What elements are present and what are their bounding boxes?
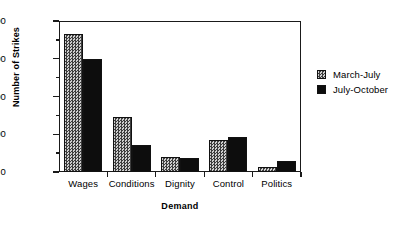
- bar: [132, 145, 151, 172]
- x-axis-tick: [107, 172, 108, 177]
- y-axis-tick-label: 200: [0, 92, 6, 102]
- legend-item-march-july: March-July: [317, 68, 388, 81]
- x-axis-tick: [252, 172, 253, 177]
- y-axis-tick-label: 0: [0, 167, 6, 177]
- legend-swatch-icon: [317, 85, 326, 94]
- legend-label: July-October: [333, 85, 388, 95]
- y-axis-tick-label: 400: [0, 16, 6, 26]
- x-axis-tick-label: Dignity: [156, 178, 204, 189]
- y-axis-tick-label: 100: [0, 129, 6, 139]
- x-axis-tick: [300, 172, 301, 177]
- bar: [161, 157, 180, 172]
- legend-item-july-october: July-October: [317, 83, 388, 96]
- x-axis-tick: [204, 172, 205, 177]
- bar: [113, 117, 132, 172]
- bars-layer: [59, 21, 301, 172]
- x-axis-tick-label: Conditions: [107, 178, 155, 189]
- bar: [258, 167, 277, 172]
- x-axis-title: Demand: [59, 201, 301, 211]
- legend-swatch-icon: [317, 70, 326, 79]
- legend: March-July July-October: [317, 68, 388, 98]
- bar: [83, 59, 102, 172]
- x-axis-tick-label: Wages: [59, 178, 107, 189]
- x-axis-tick-label: Control: [204, 178, 252, 189]
- bar: [277, 161, 296, 172]
- x-axis-tick: [155, 172, 156, 177]
- x-axis-tick-label: Politics: [253, 178, 301, 189]
- bar: [64, 34, 83, 172]
- y-axis-tick-label: 300: [0, 54, 6, 64]
- bar: [228, 137, 247, 172]
- y-axis: 0100200300400: [0, 0, 59, 225]
- legend-label: March-July: [333, 70, 380, 80]
- bar: [180, 158, 199, 172]
- bar-chart: Number of Strikes 0100200300400 WagesCon…: [0, 0, 405, 225]
- bar: [209, 140, 228, 172]
